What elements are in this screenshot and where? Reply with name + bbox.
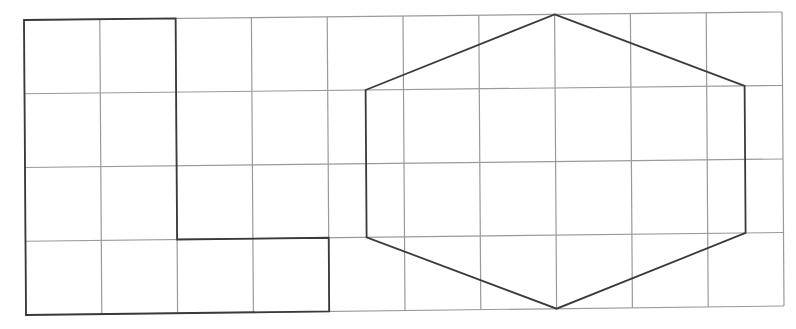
shapes <box>24 14 746 315</box>
grid-diagram <box>0 0 796 329</box>
diagram-canvas <box>0 0 796 329</box>
